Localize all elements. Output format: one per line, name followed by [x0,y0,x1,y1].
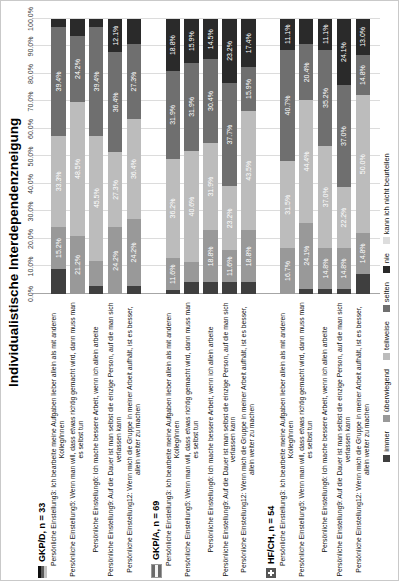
segment-value-label: 11.1% [322,25,329,44]
legend-item: überwiegend [382,369,391,422]
stacked-bar: 11.6%23.2%37.7%23.2% [222,19,237,294]
group-name: HF/CH, n = 54 [266,506,276,564]
category-label: Persönliche Einstellung3: Ich bearbeite … [51,301,66,578]
bar-row: Persönliche Einstellung9: Auf die Dauer … [106,0,125,580]
segment-value-label: 31.9% [169,105,176,125]
bar-row: Persönliche Einstellung6: Ich mache bess… [201,0,220,580]
category-label: Persönliche Einstellung5: Wenn man will,… [299,301,314,578]
bar-segment-teilweise: 43.5% [241,111,256,231]
bar-segment-selten: 36.4% [108,52,123,152]
bar-segment-selten: 37.7% [222,83,237,187]
group-austria: GKP/A, n = 69Persönliche Einstellung3: I… [149,0,257,580]
bar-groups: GKP/D, n = 33Persönliche Einstellung3: I… [35,0,378,580]
legend-swatch [383,237,390,244]
stacked-bar: 18.8%43.5%15.9%17.4% [241,19,256,294]
bar-segment-nie: 13.0% [356,19,371,55]
legend-label: immer [382,431,391,452]
legend-swatch [383,415,390,422]
bar-segment-immer [241,282,256,294]
segment-value-label: 43.5% [245,161,252,181]
stacked-bar: 40.6%31.9%15.9% [184,19,199,294]
bar-segment-nie [51,19,66,27]
legend-label: selten [382,282,391,302]
bar-segment-teilweise: 33.3% [51,136,66,228]
stacked-bar: 11.6%36.2%31.9%18.8% [166,19,181,294]
bar-segment-teilweise: 37.0% [318,146,333,248]
bar-row: Persönliche Einstellung12: Wenn mich die… [239,0,258,580]
bar-segment-teilweise: 40.6% [184,151,199,263]
switzerland-flag-icon [266,568,276,578]
category-label: Persönliche Einstellung5: Wenn man will,… [70,301,85,578]
bar-row: Persönliche Einstellung3: Ich bearbeite … [278,0,297,580]
legend-label: überwiegend [382,369,391,412]
segment-value-label: 36.4% [112,92,119,112]
segment-value-label: 17.4% [245,33,252,53]
bar-segment-ueberwiegend: 18.8% [241,231,256,283]
segment-value-label: 14.5% [207,29,214,49]
chart-canvas: Individualistische Interdependenzneigung… [0,0,399,581]
bar-row: Persönliche Einstellung6: Ich mache bess… [87,0,106,580]
segment-value-label: 30.4% [207,91,214,111]
segment-value-label: 35.2% [322,88,329,108]
bar-segment-selten: 14.8% [356,55,371,96]
bar-segment-nie: 15.9% [184,19,199,63]
legend-swatch [383,305,390,312]
segment-value-label: 18.8% [245,246,252,266]
bar-segment-selten: 30.4% [203,59,218,143]
bar-segment-immer [222,282,237,294]
bar-segment-selten: 40.7% [280,50,295,162]
segment-value-label: 14.8% [359,65,366,85]
legend-label: nie [382,253,391,263]
bar-segment-teilweise: 45.5% [89,136,104,261]
segment-value-label: 20.4% [303,62,310,82]
category-label: Persönliche Einstellung6: Ich mache bess… [321,301,329,578]
group-name: GKP/D, n = 33 [37,503,47,562]
bar-segment-nie: 11.1% [280,19,295,50]
legend-item: teilweise [382,321,391,360]
bar-row: Persönliche Einstellung5: Wenn man will,… [68,0,87,580]
bar-segment-nie: 14.5% [203,19,218,59]
segment-value-label: 15.9% [245,79,252,99]
bar-segment-teilweise: 44.4% [299,100,314,222]
group-header: GKP/D, n = 33 [35,0,49,580]
bar-segment-ueberwiegend: 24.2% [127,219,142,286]
bar-row: Persönliche Einstellung6: Ich mache bess… [316,0,335,580]
bar-segment-ueberwiegend: 14.8% [356,233,371,274]
segment-value-label: 24.2% [112,251,119,271]
bar-segment-ueberwiegend: 21.2% [70,236,85,294]
bar-segment-selten: 39.4% [51,27,66,135]
legend-label: teilweise [382,321,391,350]
legend: immerüberwiegendteilweiseseltenniekann i… [382,0,391,580]
segment-value-label: 24.1% [340,42,347,62]
stacked-bar: 24.1%44.4%20.4% [299,19,314,294]
segment-value-label: 24.1% [303,246,310,266]
bar-segment-ueberwiegend: 24.1% [299,223,314,289]
legend-swatch [383,353,390,360]
category-label: Persönliche Einstellung12: Wenn mich die… [126,301,141,578]
segment-value-label: 14.8% [359,243,366,263]
segment-value-label: 23.2% [226,208,233,228]
segment-value-label: 50.0% [359,154,366,174]
group-name: GKP/A, n = 69 [151,501,161,560]
bar-segment-selten: 35.2% [318,50,333,147]
legend-item: selten [382,282,391,312]
bar-segment-teilweise: 31.5% [280,161,295,248]
legend-item: immer [382,431,391,462]
group-switzerland: HF/CH, n = 54Persönliche Einstellung3: I… [264,0,372,580]
segment-value-label: 36.4% [130,159,137,179]
legend-item: kann ich nicht beurteilen [382,153,391,244]
category-label: Persönliche Einstellung6: Ich mache bess… [92,301,100,578]
bar-row: Persönliche Einstellung9: Auf die Dauer … [220,0,239,580]
segment-value-label: 40.6% [188,197,195,217]
stacked-bar: 14.8%50.0%14.8%13.0% [356,19,371,294]
segment-value-label: 33.3% [55,171,62,191]
germany-flag-icon [38,566,47,578]
bar-segment-nie: 17.4% [241,19,256,67]
segment-value-label: 21.2% [74,255,81,275]
bar-segment-ueberwiegend [89,261,104,286]
bar-segment-teilweise: 23.2% [222,187,237,251]
category-label: Persönliche Einstellung3: Ich bearbeite … [165,301,180,578]
stacked-bar: 24.2%36.4%27.3% [127,19,142,294]
segment-value-label: 40.7% [284,96,291,116]
segment-value-label: 48.5% [74,159,81,179]
